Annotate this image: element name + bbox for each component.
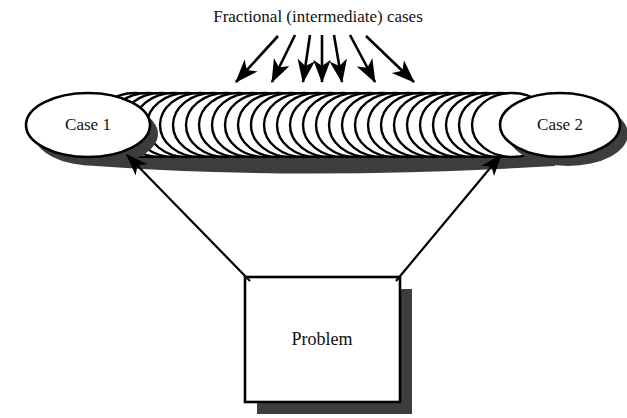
diagram-canvas: Case 1 Case 2 Fractional (intermediate) … (0, 0, 627, 418)
case-1-label: Case 1 (65, 115, 111, 134)
node-problem[interactable]: Problem (245, 277, 412, 414)
problem-arrows (127, 155, 501, 281)
arrow-problem-to-case-2 (396, 155, 501, 281)
fan-arrow-3 (303, 35, 310, 82)
problem-label: Problem (292, 329, 353, 349)
fan-arrow-1 (236, 36, 278, 82)
concept-diagram-svg: Case 1 Case 2 Fractional (intermediate) … (0, 0, 627, 418)
case-2-label: Case 2 (537, 115, 583, 134)
diagram-title: Fractional (intermediate) cases (213, 7, 423, 26)
arrow-problem-to-case-1 (127, 155, 250, 281)
fan-arrow-7 (366, 36, 414, 82)
fan-arrow-2 (272, 35, 295, 82)
title-fan-arrows (236, 35, 414, 82)
fan-arrow-5 (334, 35, 342, 82)
stack-ellipse-outlines (95, 93, 552, 157)
fractional-cases-stack (95, 93, 560, 166)
